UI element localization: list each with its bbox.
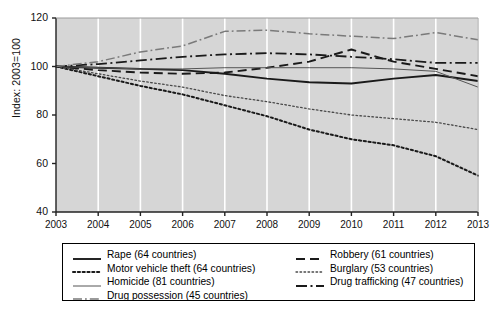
legend-column-right: Robbery (61 countries)Burglary (53 count… — [295, 248, 481, 289]
legend-swatch — [295, 277, 325, 287]
legend-item: Drug possession (45 countries) — [72, 289, 290, 302]
legend-item: Motor vehicle theft (64 countries) — [72, 262, 290, 275]
legend-line-swatch — [72, 294, 102, 304]
legend-line-swatch — [72, 267, 102, 277]
legend-column-left: Rape (64 countries)Motor vehicle theft (… — [72, 248, 290, 302]
legend-swatch — [72, 250, 102, 260]
legend-label: Rape (64 countries) — [107, 248, 196, 261]
chart-legend: Rape (64 countries)Motor vehicle theft (… — [62, 243, 475, 301]
legend-line-swatch — [295, 254, 325, 264]
legend-label: Motor vehicle theft (64 countries) — [107, 262, 255, 275]
chart-figure: Index: 2003=100 120100806040 20032004200… — [0, 0, 495, 311]
legend-item: Burglary (53 countries) — [295, 262, 481, 275]
legend-swatch — [295, 263, 325, 273]
legend-item: Rape (64 countries) — [72, 248, 290, 261]
legend-line-swatch — [72, 281, 102, 291]
legend-line-swatch — [295, 267, 325, 277]
legend-item: Drug trafficking (47 countries) — [295, 275, 481, 288]
legend-swatch — [295, 250, 325, 260]
legend-label: Burglary (53 countries) — [330, 262, 433, 275]
legend-line-swatch — [72, 254, 102, 264]
legend-label: Robbery (61 countries) — [330, 248, 434, 261]
legend-label: Homicide (81 countries) — [107, 275, 215, 288]
legend-item: Robbery (61 countries) — [295, 248, 481, 261]
legend-label: Drug trafficking (47 countries) — [330, 275, 463, 288]
legend-label: Drug possession (45 countries) — [107, 289, 248, 302]
legend-swatch — [72, 290, 102, 300]
legend-swatch — [72, 263, 102, 273]
legend-item: Homicide (81 countries) — [72, 275, 290, 288]
legend-line-swatch — [295, 281, 325, 291]
legend-swatch — [72, 277, 102, 287]
